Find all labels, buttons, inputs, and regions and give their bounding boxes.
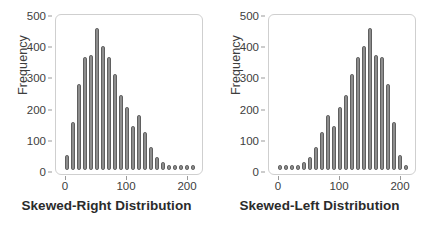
x-tick-label: 200 (390, 180, 409, 192)
y-axis-tick-labels: 500 400 300 200 100 0 (231, 16, 265, 172)
y-tick-text: 300 (27, 72, 46, 84)
histogram-bars (269, 15, 415, 174)
histogram-bar (191, 165, 195, 170)
y-tick-mark (261, 16, 265, 17)
histogram-bar (65, 155, 69, 170)
histogram-bar (380, 57, 384, 170)
y-tick-text: 100 (27, 135, 46, 147)
histogram-bar (89, 55, 93, 170)
histogram-bar (125, 107, 129, 170)
y-tick-text: 100 (240, 135, 259, 147)
histogram-bar (374, 55, 378, 170)
histogram-bar (398, 155, 402, 170)
y-tick-text: 400 (240, 41, 259, 53)
chart-caption-skewed-right: Skewed-Right Distribution (0, 198, 213, 213)
histogram-bar (107, 57, 111, 170)
histogram-bar (404, 165, 408, 170)
histogram-bar (155, 157, 159, 170)
x-tick-label: 100 (329, 180, 348, 192)
y-tick-mark (48, 172, 52, 173)
histogram-bar (344, 95, 348, 170)
histogram-bar (143, 132, 147, 170)
figure-canvas: Frequency 500 400 300 200 100 0 0 100 20… (0, 0, 427, 231)
y-tick-label: 0 (40, 166, 46, 178)
y-tick-label: 400 (27, 41, 46, 53)
histogram-bar (71, 122, 75, 170)
y-tick-label: 100 (27, 135, 46, 147)
chart-panel-skewed-left: Frequency 500 400 300 200 100 0 0 100 20… (213, 0, 426, 231)
histogram-bars (56, 15, 202, 174)
y-tick-label: 100 (240, 135, 259, 147)
histogram-bar (77, 84, 81, 170)
y-tick-label: 500 (27, 10, 46, 22)
y-tick-mark (48, 78, 52, 79)
y-tick-mark (261, 109, 265, 110)
y-tick-text: 300 (240, 72, 259, 84)
y-tick-mark (261, 78, 265, 79)
y-tick-label: 200 (240, 104, 259, 116)
histogram-bar (290, 165, 294, 170)
x-tick-label: 0 (62, 180, 68, 192)
histogram-bar (137, 115, 141, 170)
histogram-bar (284, 165, 288, 170)
y-tick-mark (48, 109, 52, 110)
y-tick-mark (261, 172, 265, 173)
histogram-bar (332, 126, 336, 170)
histogram-bar (320, 132, 324, 170)
histogram-bar (302, 162, 306, 170)
y-tick-text: 500 (27, 10, 46, 22)
y-tick-label: 200 (27, 104, 46, 116)
y-tick-mark (261, 47, 265, 48)
x-axis: 0 100 200 (55, 176, 203, 196)
chart-caption-skewed-left: Skewed-Left Distribution (213, 198, 426, 213)
x-axis: 0 100 200 (268, 176, 416, 196)
histogram-bar (113, 74, 117, 170)
x-tick-label: 100 (116, 180, 135, 192)
histogram-bar (350, 74, 354, 170)
y-tick-label: 400 (240, 41, 259, 53)
histogram-bar (173, 165, 177, 170)
histogram-bar (119, 95, 123, 170)
histogram-bar (386, 84, 390, 170)
y-tick-text: 0 (40, 166, 46, 178)
x-tick-label: 0 (275, 180, 281, 192)
histogram-bar (179, 165, 183, 170)
y-tick-mark (48, 140, 52, 141)
y-axis-tick-labels: 500 400 300 200 100 0 (18, 16, 52, 172)
plot-area-skewed-left (268, 14, 416, 175)
histogram-bar (326, 115, 330, 170)
y-tick-label: 0 (253, 166, 259, 178)
histogram-bar (314, 147, 318, 170)
histogram-bar (356, 57, 360, 170)
histogram-bar (368, 28, 372, 170)
y-tick-text: 500 (240, 10, 259, 22)
histogram-bar (278, 165, 282, 170)
y-tick-text: 200 (240, 104, 259, 116)
histogram-bar (296, 165, 300, 170)
histogram-bar (149, 147, 153, 170)
y-tick-label: 300 (240, 72, 259, 84)
histogram-bar (362, 46, 366, 170)
y-tick-mark (48, 16, 52, 17)
y-tick-text: 400 (27, 41, 46, 53)
plot-area-skewed-right (55, 14, 203, 175)
y-tick-mark (261, 140, 265, 141)
histogram-bar (167, 165, 171, 170)
y-tick-text: 200 (27, 104, 46, 116)
histogram-bar (131, 126, 135, 170)
x-tick-label: 200 (177, 180, 196, 192)
histogram-bar (338, 107, 342, 170)
histogram-bar (161, 162, 165, 170)
histogram-bar (95, 28, 99, 170)
y-tick-label: 500 (240, 10, 259, 22)
y-tick-text: 0 (253, 166, 259, 178)
histogram-bar (101, 46, 105, 170)
chart-panel-skewed-right: Frequency 500 400 300 200 100 0 0 100 20… (0, 0, 213, 231)
y-tick-label: 300 (27, 72, 46, 84)
y-tick-mark (48, 47, 52, 48)
histogram-bar (308, 157, 312, 170)
histogram-bar (392, 122, 396, 170)
histogram-bar (185, 165, 189, 170)
histogram-bar (83, 57, 87, 170)
